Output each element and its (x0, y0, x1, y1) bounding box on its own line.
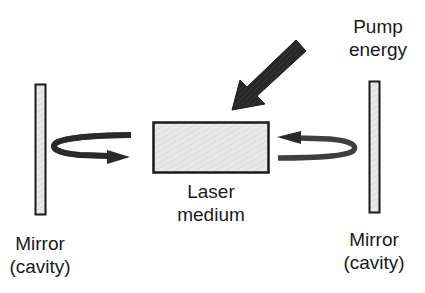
left-mirror-label-line2: (cavity) (5, 255, 75, 278)
right-mirror-label: Mirror (cavity) (339, 228, 409, 274)
pump-energy-arrow-icon (232, 40, 306, 110)
laser-medium-box (154, 123, 269, 173)
left-mirror (36, 85, 46, 215)
pump-label-line1: Pump (343, 15, 413, 38)
pump-energy-label: Pump energy (343, 15, 413, 61)
right-mirror (370, 82, 380, 213)
medium-label-line1: Laser (170, 180, 252, 203)
right-mirror-label-line1: Mirror (339, 228, 409, 251)
laser-medium-label: Laser medium (170, 180, 252, 226)
left-mirror-label-line1: Mirror (5, 232, 75, 255)
pump-label-line2: energy (343, 38, 413, 61)
curved-arrow-right-icon (54, 135, 131, 164)
laser-diagram: Pump energy Laser medium Mirror (cavity)… (0, 0, 425, 293)
curved-arrow-left-icon (277, 131, 355, 158)
left-mirror-label: Mirror (cavity) (5, 232, 75, 278)
right-mirror-label-line2: (cavity) (339, 251, 409, 274)
medium-label-line2: medium (170, 203, 252, 226)
